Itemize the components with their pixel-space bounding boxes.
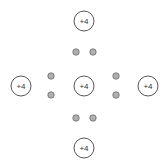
nucleus-label: +4 bbox=[79, 17, 89, 26]
nucleus-top: +4 bbox=[74, 11, 94, 31]
nucleus-center: +4 bbox=[74, 76, 94, 96]
electron-top-b bbox=[90, 49, 96, 55]
electron-top-a bbox=[73, 49, 79, 55]
electron-bottom-a bbox=[73, 115, 79, 121]
electron-left-b bbox=[48, 92, 54, 98]
nucleus-label: +4 bbox=[79, 82, 89, 91]
nucleus-label: +4 bbox=[16, 82, 26, 91]
electron-right-a bbox=[113, 73, 119, 79]
nucleus-bottom: +4 bbox=[74, 138, 94, 158]
electron-bottom-b bbox=[90, 115, 96, 121]
lattice-diagram: +4 +4 +4 +4 +4 bbox=[0, 0, 168, 168]
nucleus-left: +4 bbox=[11, 76, 31, 96]
electron-left-a bbox=[48, 73, 54, 79]
nucleus-label: +4 bbox=[143, 82, 153, 91]
nucleus-right: +4 bbox=[138, 76, 158, 96]
electron-right-b bbox=[113, 92, 119, 98]
nucleus-label: +4 bbox=[79, 144, 89, 153]
